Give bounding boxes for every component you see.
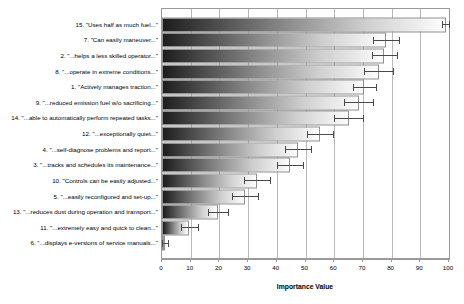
category-label: 4. "...self-diagnose problems and report… [43,145,158,152]
error-cap-low [353,84,354,91]
error-cap-low [364,68,365,75]
x-tick-label: 30 [244,264,251,271]
error-cap-low [334,115,335,122]
x-tick [276,258,277,262]
x-tick-label: 80 [387,264,394,271]
bar-row [162,33,449,48]
plot-area [161,8,450,260]
x-tick-label: 0 [159,264,162,271]
x-tick-label: 40 [272,264,279,271]
bar-row [162,127,449,142]
error-cap-high [373,99,374,106]
category-label: 15. "Uses half as much fuel..." [76,20,158,27]
error-bar [442,24,449,25]
error-cap-low [442,21,443,28]
bar-row [162,111,449,126]
category-label: 3. "...tracks and schedules its maintena… [33,161,158,168]
category-label: 9. "...reduced emission fuel w/o sacrifi… [36,98,158,105]
bar [162,95,359,110]
bar [162,64,379,79]
category-label: 7. "Can easily maneuver..." [84,36,158,43]
category-label: 8. "...operate in extreme conditions..." [55,67,158,74]
error-cap-high [168,240,169,247]
error-bar [232,196,258,197]
error-bar [344,102,373,103]
x-tick [362,258,363,262]
category-label-column: 15. "Uses half as much fuel..."7. "Can e… [0,0,158,304]
bar-row [162,142,449,157]
error-bar [373,40,399,41]
category-label: 6. "...displays e-versions of service ma… [30,239,158,246]
error-cap-low [307,131,308,138]
bar [162,111,349,126]
error-cap-high [399,37,400,44]
x-tick-label: 60 [330,264,337,271]
x-tick-label: 100 [443,264,453,271]
error-bar [285,149,311,150]
category-label: 13. "...reduces dust during operation an… [13,208,158,215]
error-cap-high [363,115,364,122]
error-cap-low [162,240,163,247]
error-cap-high [376,84,377,91]
error-cap-high [449,21,450,28]
bar-row [162,158,449,173]
x-tick [419,258,420,262]
bar-row [162,189,449,204]
bar-row [162,64,449,79]
error-bar [244,180,270,181]
bar [162,142,298,157]
error-cap-high [228,209,229,216]
x-tick-label: 50 [301,264,308,271]
category-label: 11. "...extremely easy and quick to clea… [40,223,158,230]
error-bar [307,134,333,135]
bar [162,33,386,48]
bar [162,80,364,95]
x-tick-label: 10 [186,264,193,271]
bar-row [162,173,449,188]
x-tick [247,258,248,262]
bar-row [162,205,449,220]
error-cap-high [303,162,304,169]
category-label: 5. "...easily reconfigured and set-up...… [54,192,158,199]
error-cap-high [311,146,312,153]
x-tick-label: 20 [215,264,222,271]
category-label: 14. "...able to automatically perform re… [11,114,158,121]
error-cap-low [244,177,245,184]
bar [162,17,446,32]
x-tick [305,258,306,262]
bar-row [162,48,449,63]
x-tick [333,258,334,262]
error-cap-low [277,162,278,169]
bar-row [162,95,449,110]
category-label: 10. "Controls can be easily adjusted..." [52,176,158,183]
error-bar [353,87,376,88]
error-cap-high [397,52,398,59]
error-bar [208,212,228,213]
x-tick [161,258,162,262]
error-cap-high [393,68,394,75]
error-cap-low [373,37,374,44]
error-cap-high [258,193,259,200]
error-cap-high [270,177,271,184]
error-cap-low [372,52,373,59]
error-cap-low [208,209,209,216]
error-bar [181,227,198,228]
bar-row [162,17,449,32]
category-label: 2. "...helps a less skilled operator..." [60,51,158,58]
error-cap-high [198,224,199,231]
x-tick-label: 70 [358,264,365,271]
x-tick [391,258,392,262]
error-bar [372,55,398,56]
error-cap-low [344,99,345,106]
error-cap-low [285,146,286,153]
error-bar [277,165,303,166]
error-bar [334,118,363,119]
bar-row [162,236,449,251]
x-axis-title: Importance Value [161,283,449,290]
error-cap-high [333,131,334,138]
category-label: 12. "...exceptionally quiet..." [82,130,158,137]
bar [162,173,257,188]
bar [162,158,290,173]
x-tick [218,258,219,262]
category-label: 1. "Actively manages traction..." [71,83,158,90]
